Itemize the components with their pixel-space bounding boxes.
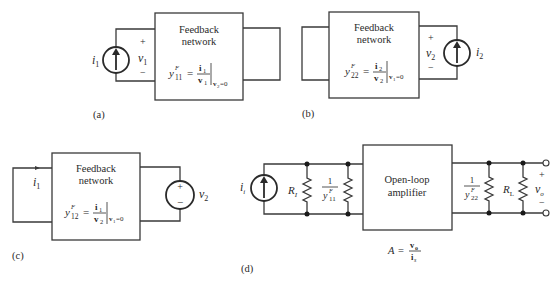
svg-text:A: A — [387, 245, 395, 256]
node-dot — [346, 212, 351, 217]
y11-inverse-label: 1 y F 11 — [322, 176, 338, 203]
box-title-a-line2: network — [182, 36, 217, 47]
box-title-a-line1: Feedback — [179, 24, 220, 35]
svg-text:o: o — [415, 245, 418, 251]
svg-text:v: v — [94, 214, 99, 224]
svg-text:s: s — [414, 257, 417, 263]
output-terminal-plus — [543, 160, 549, 166]
svg-text:=: = — [83, 206, 89, 218]
svg-text:v: v — [374, 73, 379, 83]
current-arrow-icon — [35, 166, 40, 170]
svg-text:=0: =0 — [396, 73, 404, 81]
wire-b-top — [419, 26, 457, 40]
svg-text:1: 1 — [328, 176, 333, 186]
output-minus: − — [539, 197, 545, 208]
resistor-ri-icon — [303, 164, 311, 214]
svg-text:2: 2 — [380, 77, 383, 84]
svg-text:v: v — [198, 75, 203, 85]
svg-text:=: = — [187, 67, 193, 79]
svg-text:1: 1 — [204, 79, 207, 86]
svg-text:2: 2 — [100, 218, 103, 225]
port-voltage-b: v2 — [426, 46, 435, 62]
port-minus-a: − — [140, 67, 146, 78]
amplifier-title-line2: amplifier — [388, 187, 427, 198]
resistor-rl-icon — [519, 163, 527, 213]
svg-text:2: 2 — [379, 65, 382, 72]
panel-d: ii RI 1 y F 11 Open-loop amplifier 1 y F… — [240, 145, 549, 275]
panel-label-a: (a) — [93, 109, 105, 121]
svg-text:y: y — [322, 190, 328, 201]
current-label-c: i1 — [33, 175, 40, 191]
node-dot — [487, 161, 492, 166]
wire-c-bottom — [140, 209, 180, 221]
y22-inverse-label: 1 y F 22 — [464, 175, 480, 202]
svg-text:1: 1 — [99, 206, 102, 213]
panel-a: i1 + v1 − Feedback network y F 11 = i 1 … — [92, 13, 280, 121]
source-label-c: v2 — [199, 187, 208, 203]
svg-text:11: 11 — [175, 73, 182, 82]
svg-text:22: 22 — [471, 194, 479, 202]
box-title-c-line2: network — [79, 175, 114, 186]
feedback-network-diagram: i1 + v1 − Feedback network y F 11 = i 1 … — [0, 0, 557, 289]
box-title-c-line1: Feedback — [76, 163, 117, 174]
resistor-y22-icon — [485, 163, 493, 213]
resistor-y11-icon — [344, 164, 352, 214]
wire-a-bottom — [116, 73, 155, 81]
current-source-icon — [444, 40, 470, 66]
source-label-d: ii — [240, 180, 245, 196]
output-terminal-minus — [543, 210, 549, 216]
node-dot — [305, 212, 310, 217]
panel-label-b: (b) — [302, 108, 315, 120]
svg-text:=: = — [398, 245, 404, 256]
svg-text:=: = — [363, 65, 369, 77]
short-circuit-a — [243, 28, 280, 80]
short-circuit-b — [302, 27, 329, 80]
current-source-icon — [103, 47, 129, 73]
svg-text:=0: =0 — [220, 80, 228, 88]
resistor-rl-label: RL — [502, 183, 514, 198]
panel-label-c: (c) — [12, 250, 24, 262]
output-voltage-label: vo — [535, 182, 544, 198]
box-title-b-line2: network — [357, 34, 392, 45]
current-source-icon — [251, 175, 277, 201]
svg-text:12: 12 — [71, 212, 79, 221]
node-dot — [521, 161, 526, 166]
wire-b-bottom — [419, 66, 457, 79]
box-title-b-line1: Feedback — [354, 22, 395, 33]
svg-text:y: y — [168, 67, 174, 79]
svg-text:y: y — [464, 189, 470, 200]
svg-text:1: 1 — [203, 67, 206, 74]
svg-text:11: 11 — [329, 195, 336, 203]
panel-c: i1 + − v2 Feedback network y F 12 = i 1 … — [12, 153, 208, 262]
source-label-a: i1 — [92, 53, 99, 69]
voltage-source-icon: + − — [166, 181, 194, 209]
node-dot — [487, 211, 492, 216]
svg-text:=0: =0 — [116, 215, 124, 223]
port-minus-b: − — [428, 62, 434, 73]
svg-text:y: y — [64, 206, 70, 218]
resistor-ri-label: RI — [287, 184, 298, 199]
port-voltage-a: v1 — [138, 51, 147, 67]
wire-a-top — [116, 29, 155, 47]
port-plus-a: + — [140, 36, 146, 47]
svg-text:F: F — [470, 187, 475, 193]
svg-text:−: − — [177, 196, 183, 208]
amplifier-title-line1: Open-loop — [385, 174, 430, 185]
source-label-b: i2 — [476, 45, 483, 61]
svg-text:+: + — [177, 181, 183, 192]
panel-b: i2 + v2 − Feedback network y F 22 = i 2 … — [302, 12, 483, 120]
node-dot — [305, 162, 310, 167]
port-plus-b: + — [428, 32, 434, 43]
node-dot — [521, 211, 526, 216]
output-plus: + — [539, 169, 545, 180]
svg-text:y: y — [344, 65, 350, 77]
svg-text:1: 1 — [470, 175, 475, 185]
gain-equation: A = v o i s — [387, 240, 421, 263]
wire-c-top — [140, 167, 180, 181]
node-dot — [346, 162, 351, 167]
svg-text:22: 22 — [351, 71, 359, 80]
svg-text:F: F — [328, 188, 333, 194]
panel-label-d: (d) — [241, 263, 254, 275]
